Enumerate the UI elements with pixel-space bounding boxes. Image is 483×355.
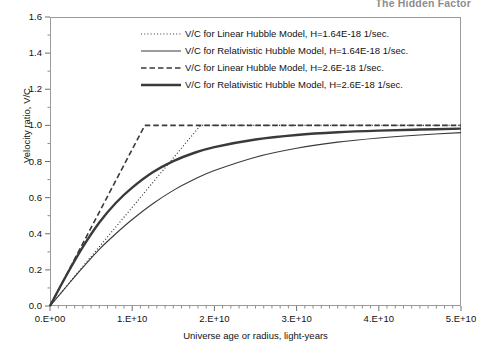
series-line-0	[50, 125, 461, 306]
y-tick-label: 0.0	[0, 301, 42, 311]
y-tick-label: 0.2	[0, 265, 42, 275]
x-tick-label: 0.E+00	[20, 314, 80, 324]
legend-item[interactable]: V/C for Linear Hubble Model, H=2.6E-18 1…	[140, 59, 440, 76]
legend-item-label: V/C for Linear Hubble Model, H=1.64E-18 …	[182, 28, 389, 39]
series-line-3	[50, 129, 461, 306]
x-axis-ticks	[50, 306, 461, 311]
legend-item-label: V/C for Relativistic Hubble Model, H=2.6…	[182, 79, 403, 90]
x-axis-title: Universe age or radius, light-years	[50, 330, 461, 341]
y-axis-title: Velocity ratio, V/C	[21, 56, 32, 196]
legend-item[interactable]: V/C for Relativistic Hubble Model, H=2.6…	[140, 76, 440, 93]
x-tick-label: 5.E+10	[431, 314, 483, 324]
chart-legend: V/C for Linear Hubble Model, H=1.64E-18 …	[140, 25, 440, 93]
y-axis-ticks	[45, 17, 50, 306]
y-tick-label: 1.6	[0, 12, 42, 22]
x-tick-label: 1.E+10	[102, 314, 162, 324]
x-tick-label: 2.E+10	[184, 314, 244, 324]
velocity-ratio-chart: 0.00.20.40.60.81.01.21.41.6 0.E+001.E+10…	[0, 0, 483, 355]
x-tick-label: 3.E+10	[267, 314, 327, 324]
y-tick-label: 0.4	[0, 229, 42, 239]
x-tick-label: 4.E+10	[349, 314, 409, 324]
legend-item[interactable]: V/C for Linear Hubble Model, H=1.64E-18 …	[140, 25, 440, 42]
series-line-1	[50, 133, 461, 306]
legend-item[interactable]: V/C for Relativistic Hubble Model, H=1.6…	[140, 42, 440, 59]
legend-line-swatch	[140, 79, 182, 91]
legend-item-label: V/C for Relativistic Hubble Model, H=1.6…	[182, 45, 408, 56]
chart-series-group	[50, 125, 461, 306]
legend-line-swatch	[140, 62, 182, 74]
legend-line-swatch	[140, 28, 182, 40]
series-line-2	[50, 125, 461, 306]
legend-item-label: V/C for Linear Hubble Model, H=2.6E-18 1…	[182, 62, 384, 73]
legend-line-swatch	[140, 45, 182, 57]
